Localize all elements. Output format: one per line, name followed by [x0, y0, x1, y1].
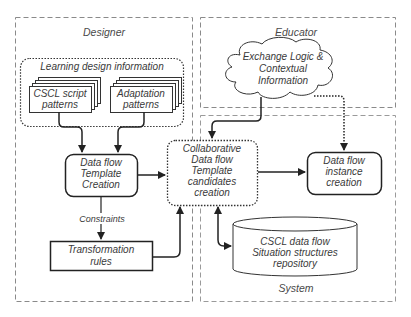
cscl-script-line1: CSCL script — [33, 88, 87, 99]
adaptation-line2: patterns — [122, 99, 159, 110]
edge-rules-to-collaborative — [153, 207, 180, 257]
collaborative-line4: candidates — [188, 176, 236, 187]
cscl-script-line2: patterns — [41, 99, 78, 110]
learning-design-label: Learning design information — [40, 61, 164, 72]
cloud-line2: Contextual — [259, 63, 308, 74]
template-creation-line1: Data flow — [80, 157, 122, 168]
edge-cloud-to-collaborative — [212, 97, 261, 138]
instance-line3: creation — [326, 177, 362, 188]
exchange-logic-cloud-node[interactable]: Exchange Logic & Contextual Information — [226, 37, 333, 98]
lane-system-label: System — [278, 282, 313, 294]
template-creation-line3: Creation — [82, 179, 120, 190]
repository-cylinder-node[interactable]: CSCL data flow Situation structures repo… — [233, 217, 357, 276]
rules-line1: Transformation — [68, 244, 135, 255]
collaborative-line1: Collaborative — [183, 143, 242, 154]
lane-educator-label: Educator — [275, 26, 318, 38]
constraints-label: Constraints — [79, 214, 125, 224]
template-creation-line2: Template — [81, 168, 122, 179]
instance-line1: Data flow — [323, 155, 365, 166]
rules-line2: rules — [90, 256, 112, 267]
collaborative-line5: creation — [194, 187, 230, 198]
collaborative-candidates-node[interactable]: Collaborative Data flow Template candida… — [168, 141, 258, 206]
instance-creation-node[interactable]: Data flow instance creation — [308, 153, 382, 195]
edge-adaptation-to-template — [118, 112, 144, 152]
repository-line1: CSCL data flow — [260, 236, 330, 247]
collaborative-line3: Template — [192, 165, 233, 176]
cloud-line1: Exchange Logic & — [243, 51, 324, 62]
edge-cloud-to-instance — [314, 96, 344, 150]
repository-line3: repository — [273, 258, 318, 269]
template-creation-node[interactable]: Data flow Template Creation — [66, 155, 138, 197]
instance-line2: instance — [325, 166, 363, 177]
cloud-line3: Information — [258, 75, 308, 86]
edge-collaborative-repository — [218, 207, 231, 246]
edge-cscl-to-template — [59, 112, 82, 152]
lane-designer-label: Designer — [83, 26, 126, 38]
adaptation-line1: Adaptation — [116, 88, 165, 99]
cscl-script-patterns-node[interactable]: CSCL script patterns — [30, 78, 101, 113]
diagram-canvas: Designer Educator System Learning design… — [0, 0, 411, 317]
adaptation-patterns-node[interactable]: Adaptation patterns — [111, 78, 182, 113]
collaborative-line2: Data flow — [191, 154, 233, 165]
repository-line2: Situation structures — [252, 247, 338, 258]
transformation-rules-node[interactable]: Transformation rules — [51, 242, 153, 271]
